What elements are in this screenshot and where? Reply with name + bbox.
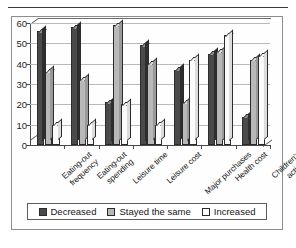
bar-decreased xyxy=(37,31,44,145)
bar-increased xyxy=(121,104,128,145)
bar-stayed-the-same xyxy=(147,64,154,145)
legend-label: Decreased xyxy=(51,206,97,217)
bar-stayed-the-same xyxy=(113,25,120,145)
bar-side-face xyxy=(92,119,96,141)
bar-group xyxy=(140,23,163,145)
y-axis-tick-mark xyxy=(26,104,30,105)
bar-group xyxy=(174,23,197,145)
bar-stayed-the-same xyxy=(216,51,223,145)
bar-stayed-the-same xyxy=(45,72,52,145)
bar-increased xyxy=(189,60,196,145)
bar-stayed-the-same xyxy=(250,60,257,145)
bar-decreased xyxy=(71,27,78,145)
x-axis-tick-mark xyxy=(236,145,237,149)
bar-group xyxy=(105,23,128,145)
plot-area xyxy=(30,23,270,145)
y-axis-tick-mark xyxy=(26,43,30,44)
bar-decreased xyxy=(140,45,147,145)
chart-legend: Decreased Stayed the same Increased xyxy=(27,203,267,220)
x-axis-tick-mark xyxy=(201,145,202,149)
chart-figure: 0102030405060 Decreased Stayed the same … xyxy=(0,0,296,248)
legend-label: Increased xyxy=(214,206,256,217)
bar-decreased xyxy=(174,70,181,145)
bar-side-face xyxy=(58,119,62,141)
bar-group xyxy=(71,23,94,145)
bar-decreased xyxy=(105,102,112,145)
bar-side-face xyxy=(195,54,199,141)
y-axis-labels: 0102030405060 xyxy=(0,23,27,145)
bar-side-face xyxy=(161,119,165,141)
legend-item-stayed-the-same: Stayed the same xyxy=(107,206,190,217)
bar-group xyxy=(37,23,60,145)
bar-stayed-the-same xyxy=(79,80,86,145)
x-axis-tick-mark xyxy=(270,145,271,149)
bar-decreased xyxy=(242,117,249,145)
bar-side-face xyxy=(127,98,131,140)
legend-item-decreased: Decreased xyxy=(39,206,97,217)
bar-increased xyxy=(155,125,162,145)
bar-side-face xyxy=(229,29,233,140)
dark-gray-swatch-icon xyxy=(39,208,47,216)
top-divider-rule xyxy=(8,7,288,8)
legend-label: Stayed the same xyxy=(119,206,190,217)
bar-group xyxy=(208,23,231,145)
light-gray-swatch-icon xyxy=(107,208,115,216)
back-wall-top-edge xyxy=(38,18,271,19)
bar-increased xyxy=(52,125,59,145)
bar-side-face xyxy=(264,49,268,140)
x-axis-tick-mark xyxy=(99,145,100,149)
legend-item-increased: Increased xyxy=(202,206,256,217)
y-axis-tick-mark xyxy=(26,84,30,85)
y-axis-tick-mark xyxy=(26,64,30,65)
bar-group xyxy=(242,23,265,145)
y-axis-tick-mark xyxy=(26,23,30,24)
bar-decreased xyxy=(208,54,215,146)
y-axis-tick-mark xyxy=(26,145,30,146)
x-axis-tick-mark xyxy=(167,145,168,149)
bar-stayed-the-same xyxy=(182,102,189,145)
bar-increased xyxy=(87,125,94,145)
x-axis-tick-mark xyxy=(64,145,65,149)
y-axis-tick-mark xyxy=(26,125,30,126)
bar-increased xyxy=(224,35,231,145)
x-axis-tick-mark xyxy=(133,145,134,149)
bar-increased xyxy=(258,56,265,145)
white-swatch-icon xyxy=(202,208,210,216)
